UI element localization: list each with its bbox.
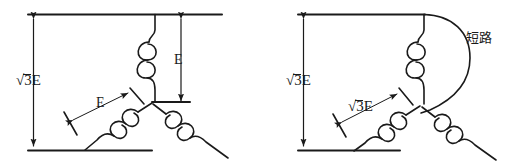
left-coil-ll-outer-lead [85,134,114,150]
short-circuit-arc [421,15,470,114]
diagram-svg [0,0,506,167]
diagram-canvas: √3E E E √3E √3E 短路 [0,0,506,167]
right-diag-dim-tick-end [399,88,413,105]
left-line-voltage-label: √3E [16,73,41,88]
short-circuit-label: 短路 [466,31,492,44]
right-line-voltage-label: √3E [286,73,311,88]
left-phase-voltage-vertical-label: E [174,53,183,67]
right-coil-ll-outer-lead [354,137,382,151]
left-phase-voltage-diagonal-label: E [96,96,105,110]
radical-sign: √ [286,73,294,88]
radical-bar [23,74,31,75]
right-diag-dim-tick-start [333,114,346,137]
left-coil-top-turn-2 [137,60,155,78]
right-coil-top-turn-2 [406,60,424,78]
radical-bar [355,100,363,101]
radical-sign: √ [16,73,24,88]
right-coil-top-turn-1 [407,42,425,60]
left-coil-lr-outer-lead [190,136,228,158]
right-coil-top-bottom-lead [416,78,424,104]
radical-bar [293,74,301,75]
left-diagram-group [28,15,228,159]
left-diag-dim-tick-end [130,88,144,104]
left-coil-top-turn-1 [138,42,156,60]
left-coil-top-bottom-lead [147,78,155,102]
right-coil-lr-outer-lead [459,139,496,160]
left-coil-top-lead [149,15,155,43]
right-coil-ll-inner-lead [406,106,420,115]
radical-sign: √ [348,99,356,114]
left-coil-lr-inner-lead [153,104,166,114]
right-phase-voltage-diagonal-label: √3E [348,99,373,114]
right-coil-top-lead [418,15,424,43]
left-coil-ll-inner-lead [138,103,152,112]
left-diag-dim-tick-start [64,112,77,135]
